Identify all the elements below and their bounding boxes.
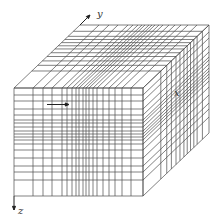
grid-cube-diagram [0,0,222,220]
axis-label-z: z [18,206,23,216]
x-axis-marker-arrowhead [65,103,69,106]
axis-label-y: y [97,9,103,19]
axis-label-x: x [174,88,180,98]
mesh-lines [14,25,209,196]
z-axis-arrowhead [12,206,15,210]
